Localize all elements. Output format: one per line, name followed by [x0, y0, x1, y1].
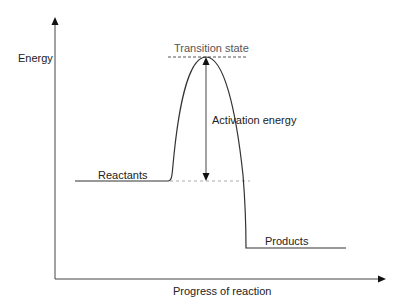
products-label: Products — [265, 236, 308, 247]
y-axis-arrowhead — [52, 17, 59, 25]
y-axis-label: Energy — [18, 53, 53, 64]
activation-energy-label: Activation energy — [212, 115, 296, 126]
arrowhead-up-icon — [203, 57, 210, 65]
arrowhead-down-icon — [203, 173, 210, 181]
energy-curve — [75, 57, 346, 248]
reactants-label: Reactants — [98, 170, 148, 181]
x-axis-label: Progress of reaction — [173, 286, 271, 297]
transition-state-label: Transition state — [174, 43, 249, 54]
x-axis-arrowhead — [378, 276, 386, 283]
